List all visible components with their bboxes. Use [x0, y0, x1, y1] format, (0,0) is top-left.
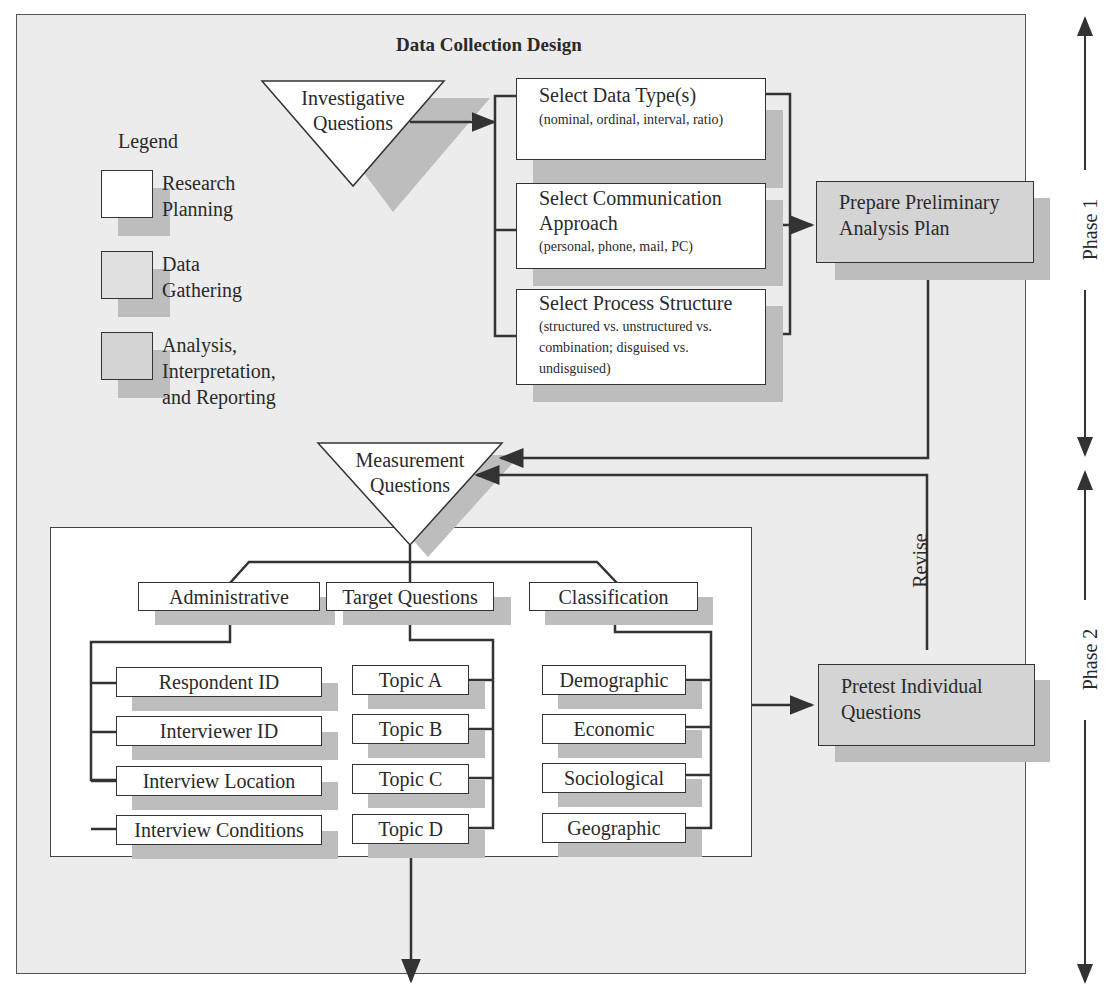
legend-swatch-research-planning — [101, 170, 153, 218]
admin-item: Interview Location — [116, 766, 322, 796]
prepare-analysis-plan-box: Prepare Preliminary Analysis Plan — [816, 181, 1034, 263]
measurement-questions-label: MeasurementQuestions — [328, 448, 492, 498]
target-item: Topic D — [352, 814, 469, 844]
legend-label-research-planning: ResearchPlanning — [162, 170, 235, 222]
legend-swatch-data-gathering — [101, 251, 153, 299]
classification-item: Demographic — [542, 665, 686, 695]
target-item: Topic B — [352, 714, 469, 744]
phase-1-label: Phase 1 — [1079, 189, 1102, 271]
select-communication-approach-box: Select Communication Approach (personal,… — [516, 183, 766, 269]
classification-item: Sociological — [542, 763, 686, 793]
admin-item: Interview Conditions — [116, 815, 322, 845]
pretest-questions-box: Pretest Individual Questions — [818, 664, 1035, 746]
classification-item: Geographic — [542, 813, 686, 843]
select-data-type-box: Select Data Type(s) (nominal, ordinal, i… — [516, 78, 766, 160]
category-target-questions: Target Questions — [326, 582, 494, 611]
category-administrative: Administrative — [138, 582, 320, 611]
phase-2-label: Phase 2 — [1079, 619, 1102, 701]
admin-item: Interviewer ID — [116, 716, 322, 746]
diagram-title: Data Collection Design — [396, 34, 582, 56]
legend-heading: Legend — [118, 128, 178, 154]
legend-label-data-gathering: DataGathering — [162, 251, 242, 303]
legend-swatch-analysis-reporting — [101, 332, 153, 380]
investigative-questions-label: InvestigativeQuestions — [270, 86, 436, 136]
target-item: Topic C — [352, 764, 469, 794]
classification-item: Economic — [542, 714, 686, 744]
target-item: Topic A — [352, 665, 469, 695]
revise-label: Revise — [909, 525, 932, 597]
category-classification: Classification — [529, 582, 698, 611]
admin-item: Respondent ID — [116, 667, 322, 697]
legend-label-analysis-reporting: Analysis,Interpretation,and Reporting — [162, 332, 276, 410]
select-process-structure-box: Select Process Structure (structured vs.… — [516, 289, 766, 385]
